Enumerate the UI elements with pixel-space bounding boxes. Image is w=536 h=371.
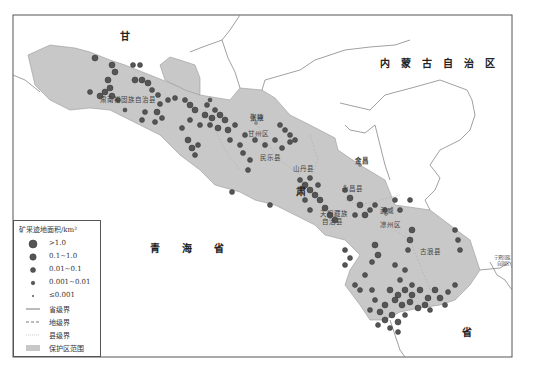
legend-item: 保护区范围 <box>14 342 102 354</box>
area-fill-icon <box>24 342 42 354</box>
dashed-line-icon <box>24 316 42 328</box>
place-label: 金昌 <box>355 155 369 165</box>
dot-s-icon <box>24 277 42 289</box>
legend-label: 地级界 <box>49 317 70 327</box>
place-label: 甘州区 <box>248 128 269 138</box>
place-label: 永昌县 <box>342 183 363 193</box>
dot-l-icon <box>24 251 42 263</box>
place-label: 武威 <box>380 205 394 215</box>
legend-item: 地级界 <box>14 316 102 328</box>
province-label-gan: 甘 <box>120 28 141 43</box>
legend-item: 0.001~0.01 <box>14 277 102 289</box>
region-label-inner-mongolia: 内蒙古自治区 <box>380 55 506 70</box>
place-label: 民乐县 <box>260 152 281 162</box>
province-label-sheng: 省 <box>462 324 483 339</box>
place-label: 山丹县 <box>293 163 314 173</box>
legend-item: 县级界 <box>14 329 102 341</box>
legend-label: 县级界 <box>49 330 70 340</box>
legend-label: 0.1~1.0 <box>49 252 77 260</box>
dotted-line-icon <box>24 329 42 341</box>
legend-label: >1.0 <box>49 239 66 247</box>
legend-item: >1.0 <box>14 238 102 250</box>
legend-item: 省级界 <box>14 303 102 315</box>
legend-label: 0.01~0.1 <box>49 265 82 273</box>
legend: 矿采迹地面积/km² >1.0 0.1~1.0 0.01~0.1 0.001~0… <box>13 220 101 357</box>
place-label: 肃南裕固族自治县 <box>100 94 156 104</box>
place-label: 张掖 <box>250 112 264 122</box>
place-label: 凉州区 <box>380 219 401 229</box>
province-label-su: 肃 <box>296 183 317 198</box>
legend-label: 省级界 <box>49 304 70 314</box>
region-label-qinghai: 青海省 <box>150 240 246 255</box>
legend-label: 0.001~0.01 <box>49 278 91 286</box>
legend-title: 矿采迹地面积/km² <box>19 224 77 234</box>
dot-m-icon <box>24 264 42 276</box>
dot-xl-icon <box>24 238 42 250</box>
place-label: 自治区 <box>497 260 509 266</box>
solid-line-icon <box>24 303 42 315</box>
legend-label: 保护区范围 <box>49 343 84 353</box>
place-label: 自治县 <box>322 216 343 226</box>
legend-item: ≤0.001 <box>14 290 102 302</box>
legend-label: ≤0.001 <box>49 291 75 299</box>
legend-item: 0.1~1.0 <box>14 251 102 263</box>
place-label: 古浪县 <box>420 246 441 256</box>
legend-item: 0.01~0.1 <box>14 264 102 276</box>
dot-xs-icon <box>24 290 42 302</box>
